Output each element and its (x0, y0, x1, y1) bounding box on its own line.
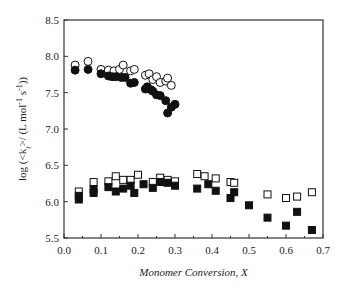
data-point-circle (84, 57, 92, 65)
x-tick-label: 0.1 (94, 244, 108, 256)
data-point-circle (164, 74, 172, 82)
data-point-square (264, 214, 271, 221)
data-point-square (201, 173, 208, 180)
data-point-square (135, 171, 142, 178)
data-point-square (308, 227, 315, 234)
x-tick-label: 0.6 (279, 244, 293, 256)
data-point-square (75, 192, 82, 199)
data-point-square (205, 181, 212, 188)
x-tick-label: 0.7 (316, 244, 330, 256)
x-tick-label: 0.5 (242, 244, 256, 256)
data-point-square (308, 189, 315, 196)
y-tick-label: 7.5 (45, 87, 59, 99)
data-point-square (283, 195, 290, 202)
data-point-square (120, 185, 127, 192)
data-point-circle (130, 65, 138, 73)
y-tick-label: 8.5 (45, 14, 59, 26)
data-point-square (120, 176, 127, 183)
data-point-square (105, 184, 112, 191)
data-point-square (112, 173, 119, 180)
data-point-circle (130, 78, 138, 86)
data-point-square (131, 189, 138, 196)
x-tick-label: 0.3 (168, 244, 182, 256)
y-tick-label: 5.5 (45, 232, 59, 244)
data-point-square (157, 179, 164, 186)
data-point-square (294, 193, 301, 200)
data-point-square (149, 184, 156, 191)
data-point-square (194, 185, 201, 192)
plot-frame (64, 20, 323, 238)
data-point-square (127, 182, 134, 189)
y-tick-label: 6.0 (45, 196, 59, 208)
data-point-square (264, 191, 271, 198)
data-point-circle (171, 100, 179, 108)
data-point-square (231, 189, 238, 196)
x-tick-label: 0.4 (205, 244, 219, 256)
y-axis-label: log (<kt>/ (L mol-1 s-1)) (15, 77, 33, 181)
data-point-square (112, 188, 119, 195)
data-point-circle (71, 66, 79, 74)
x-tick-label: 0.0 (57, 244, 71, 256)
data-point-circle (167, 81, 175, 89)
y-tick-label: 6.5 (45, 159, 59, 171)
chart-figure: 0.00.10.20.30.40.50.60.75.56.06.57.07.58… (0, 0, 349, 295)
y-tick-label: 7.0 (45, 123, 59, 135)
data-point-square (140, 181, 147, 188)
data-point-square (90, 179, 97, 186)
data-point-square (164, 179, 171, 186)
y-tick-label: 8.0 (45, 50, 59, 62)
data-point-square (231, 179, 238, 186)
x-axis-label: Monomer Conversion, X (138, 266, 249, 278)
scatter-plot: 0.00.10.20.30.40.50.60.75.56.06.57.07.58… (0, 0, 349, 295)
data-point-square (212, 175, 219, 182)
data-point-square (283, 222, 290, 229)
x-tick-label: 0.2 (131, 244, 145, 256)
data-point-circle (162, 97, 170, 105)
data-point-square (194, 171, 201, 178)
data-point-square (246, 202, 253, 209)
data-point-circle (97, 70, 105, 78)
data-point-circle (119, 61, 127, 69)
data-point-square (212, 187, 219, 194)
data-point-square (172, 182, 179, 189)
data-point-square (294, 208, 301, 215)
data-point-square (90, 186, 97, 193)
data-point-circle (84, 65, 92, 73)
